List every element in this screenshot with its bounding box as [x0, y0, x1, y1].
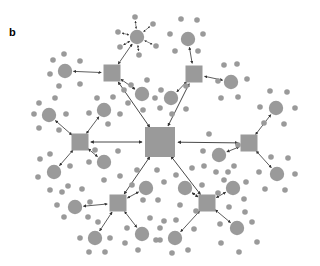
cluster-node: [212, 148, 226, 162]
leaf-node: [191, 226, 197, 232]
leaf-node: [110, 94, 116, 100]
leaf-node: [134, 167, 140, 173]
edge-arrow: [128, 192, 139, 198]
leaf-node: [221, 62, 227, 68]
leaf-node: [47, 187, 53, 193]
edge-arrow: [144, 27, 150, 32]
hub-node: [186, 66, 203, 83]
leaf-node: [150, 21, 156, 27]
edge-arrow: [124, 41, 130, 45]
cluster-node: [42, 108, 56, 122]
leaf-node: [153, 43, 159, 49]
leaf-node: [77, 235, 83, 241]
leaf-node: [61, 51, 67, 57]
cluster-node: [139, 181, 153, 195]
leaf-node: [161, 218, 167, 224]
leaf-node: [161, 179, 167, 185]
leaf-node: [87, 199, 93, 205]
leaf-node: [172, 48, 178, 54]
leaf-node: [94, 95, 100, 101]
leaf-node: [36, 125, 42, 131]
leaf-node: [122, 240, 128, 246]
leaf-node: [102, 249, 108, 255]
leaf-node: [193, 208, 199, 214]
leaf-node: [144, 77, 150, 83]
leaf-node: [121, 87, 127, 93]
leaf-node: [261, 120, 267, 126]
edge-arrow: [100, 212, 112, 231]
leaf-node: [86, 110, 92, 116]
cluster-node: [68, 200, 82, 214]
leaf-node: [201, 163, 207, 169]
hub-node: [104, 65, 121, 82]
leaf-node: [158, 87, 164, 93]
hub-node: [72, 134, 89, 151]
leaf-node: [199, 182, 205, 188]
edges-layer: [55, 21, 271, 232]
leaf-node: [244, 76, 250, 82]
central-hub-node: [145, 127, 175, 157]
leaf-node: [292, 171, 298, 177]
edge-arrow: [189, 47, 192, 63]
leaf-node: [35, 174, 41, 180]
cluster-node: [178, 181, 192, 195]
leaf-node: [173, 172, 179, 178]
leaf-node: [56, 127, 62, 133]
leaf-node: [154, 167, 160, 173]
leaf-node: [132, 14, 138, 20]
leaf-node: [200, 148, 206, 154]
leaf-node: [226, 204, 232, 210]
leaf-node: [262, 186, 268, 192]
leaf-node: [85, 214, 91, 220]
edge-arrow: [181, 211, 200, 232]
leaf-node: [92, 147, 98, 153]
hub-node: [241, 135, 258, 152]
leaf-node: [124, 225, 130, 231]
edge-arrow: [83, 204, 107, 206]
leaf-node: [215, 78, 221, 84]
leaf-node: [105, 121, 111, 127]
leaf-node: [77, 81, 83, 87]
leaf-node: [231, 163, 237, 169]
leaf-node: [140, 107, 146, 113]
cluster-node: [47, 165, 61, 179]
leaf-node: [218, 240, 224, 246]
leaf-node: [225, 169, 231, 175]
cluster-node: [58, 64, 72, 78]
leaf-node: [140, 197, 146, 203]
leaf-node: [195, 48, 201, 54]
leaf-node: [282, 187, 288, 193]
cluster-node: [164, 91, 178, 105]
cluster-node: [97, 103, 111, 117]
edge-arrow: [87, 117, 99, 134]
leaf-node: [37, 156, 43, 162]
edge-arrow: [192, 193, 198, 197]
leaf-node: [107, 235, 113, 241]
leaf-node: [194, 17, 200, 23]
edge-arrow: [125, 212, 137, 228]
cluster-node: [135, 87, 149, 101]
leaf-node: [183, 83, 189, 89]
leaf-node: [63, 111, 69, 117]
leaf-node: [243, 179, 249, 185]
leaf-node: [136, 52, 142, 58]
leaf-node: [200, 31, 206, 37]
leaf-node: [129, 182, 135, 188]
leaf-node: [217, 221, 223, 227]
leaf-node: [86, 159, 92, 165]
cluster-node: [226, 181, 240, 195]
leaf-node: [86, 249, 92, 255]
cluster-node: [270, 167, 284, 181]
leaf-node: [36, 100, 42, 106]
edge-arrow: [135, 21, 136, 28]
leaf-node: [267, 88, 273, 94]
leaf-node: [213, 169, 219, 175]
leaf-node: [157, 105, 163, 111]
leaf-node: [285, 155, 291, 161]
edge-arrow: [256, 151, 271, 168]
leaf-node: [242, 209, 248, 215]
leaf-node: [153, 237, 159, 243]
leaf-node: [115, 148, 121, 154]
leaf-node: [235, 142, 241, 148]
hub-node: [199, 195, 216, 212]
